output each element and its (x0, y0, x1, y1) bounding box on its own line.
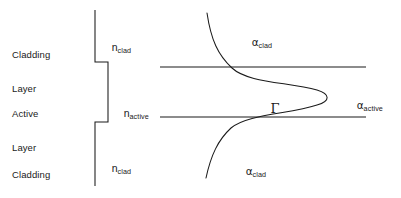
region-label-line1: Cladding (12, 49, 50, 60)
loss-symbol-subscript: clad (259, 42, 273, 51)
index-and-mode-profile-figure: Cladding Layer Active Layer Cladding Lay… (0, 0, 401, 198)
loss-label-alpha-clad-lower: αclad (234, 153, 266, 193)
loss-symbol-base: α (357, 99, 364, 111)
index-symbol-subscript: active (130, 113, 149, 122)
index-label-n-clad-upper: nclad (100, 29, 131, 69)
index-label-n-active: nactive (112, 95, 149, 135)
loss-symbol-subscript: clad (253, 171, 267, 180)
index-symbol-subscript: clad (118, 168, 132, 177)
loss-symbol-base: α (246, 165, 253, 177)
loss-symbol-subscript: active (364, 105, 383, 114)
loss-label-alpha-clad-upper: αclad (240, 24, 272, 64)
figure-canvas (0, 0, 401, 198)
region-label-line1: Cladding (12, 169, 50, 180)
region-label-line1: Active (12, 108, 38, 119)
gamma-symbol: Γ (271, 101, 280, 116)
gamma-confinement-factor-label: Γ (254, 86, 280, 132)
loss-symbol-base: α (252, 36, 259, 48)
index-symbol-subscript: clad (118, 47, 132, 56)
loss-label-alpha-active: αactive (345, 87, 383, 127)
region-label-lower-cladding: Cladding Layer (12, 147, 50, 198)
index-label-n-clad-lower: nclad (100, 150, 131, 190)
